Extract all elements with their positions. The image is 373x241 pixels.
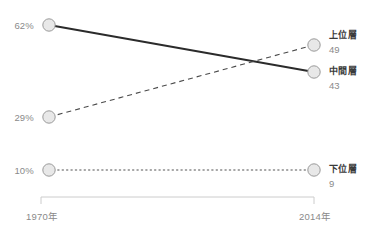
slope-chart: 62% 29% 10% 上位層 49 中間層 43 下位層 9 1970年 20… bbox=[0, 0, 373, 241]
chart-plot-area bbox=[0, 0, 373, 241]
series-line-chukansou bbox=[49, 45, 314, 117]
x-axis-bracket bbox=[41, 197, 314, 204]
legend-label-jouisou: 上位層 bbox=[329, 31, 357, 40]
series-line-jouisou bbox=[49, 25, 314, 72]
axis-label-chukansou-start: 29% bbox=[0, 113, 34, 123]
legend-value-kaisou: 9 bbox=[329, 179, 334, 189]
marker-chukansou-2014 bbox=[308, 39, 320, 51]
x-tick-label-1970: 1970年 bbox=[26, 212, 58, 222]
marker-kaisou-1970 bbox=[43, 164, 55, 176]
marker-jouisou-1970 bbox=[43, 19, 55, 31]
marker-chukansou-1970 bbox=[43, 111, 55, 123]
x-tick-label-2014: 2014年 bbox=[299, 212, 331, 222]
legend-label-kaisou: 下位層 bbox=[329, 165, 357, 174]
axis-label-jouisou-start: 62% bbox=[0, 21, 34, 31]
marker-jouisou-2014 bbox=[308, 66, 320, 78]
marker-kaisou-2014 bbox=[308, 164, 320, 176]
legend-label-chukansou: 中間層 bbox=[329, 67, 357, 76]
legend-value-jouisou: 49 bbox=[329, 45, 340, 55]
legend-value-chukansou: 43 bbox=[329, 81, 340, 91]
axis-label-kaisou-start: 10% bbox=[0, 166, 34, 176]
